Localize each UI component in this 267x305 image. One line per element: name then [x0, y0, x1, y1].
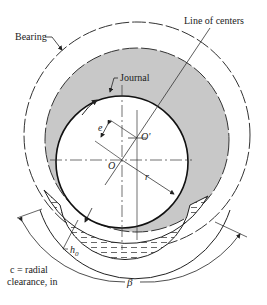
- journal-bearing-diagram: Bearing Line of centers Journal e O' O r…: [0, 0, 267, 305]
- bearing-label: Bearing: [15, 32, 47, 42]
- radius-label: r: [145, 172, 149, 182]
- clearance-label-line1: c = radial: [10, 265, 48, 275]
- angle-beta-label: β: [127, 277, 132, 288]
- diagram-graphic: [0, 0, 267, 305]
- line-of-centers-label: Line of centers: [184, 16, 244, 26]
- clearance-label-line2: clearance, in: [7, 277, 58, 287]
- bearing-center-label: O': [141, 132, 150, 142]
- journal-center-label: O: [108, 161, 115, 171]
- journal-label: Journal: [120, 73, 149, 83]
- min-film-label: h0: [70, 245, 79, 258]
- eccentricity-label: e: [98, 123, 102, 133]
